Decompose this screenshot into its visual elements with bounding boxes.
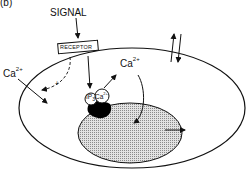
calcium-cytosolic-label: Ca2+ [120, 56, 140, 69]
receptor-to-ip3-arrow [88, 56, 90, 88]
signal-label: SIGNAL [50, 7, 87, 18]
calcium-charge: 2+ [16, 66, 23, 72]
calcium-symbol: Ca [3, 68, 16, 79]
cell-diagram [0, 0, 249, 174]
calcium-charge: 2+ [103, 91, 108, 96]
receptor-label: RECEPTOR [60, 44, 92, 50]
influx-arrow [178, 34, 181, 62]
signal-arrow [76, 18, 78, 38]
calcium-extracellular-label: Ca2+ [3, 66, 23, 79]
ip3-label: IP3 [86, 93, 95, 102]
calcium-bound-label: Ca2+ [95, 91, 108, 100]
efflux-arrow [171, 34, 174, 62]
calcium-influx-arrow [18, 79, 47, 103]
calcium-symbol: Ca [120, 58, 133, 69]
panel-label: (b) [0, 0, 12, 8]
calcium-release-arrow [104, 75, 116, 88]
calcium-charge: 2+ [133, 56, 140, 62]
plus-sign: + [55, 80, 59, 87]
